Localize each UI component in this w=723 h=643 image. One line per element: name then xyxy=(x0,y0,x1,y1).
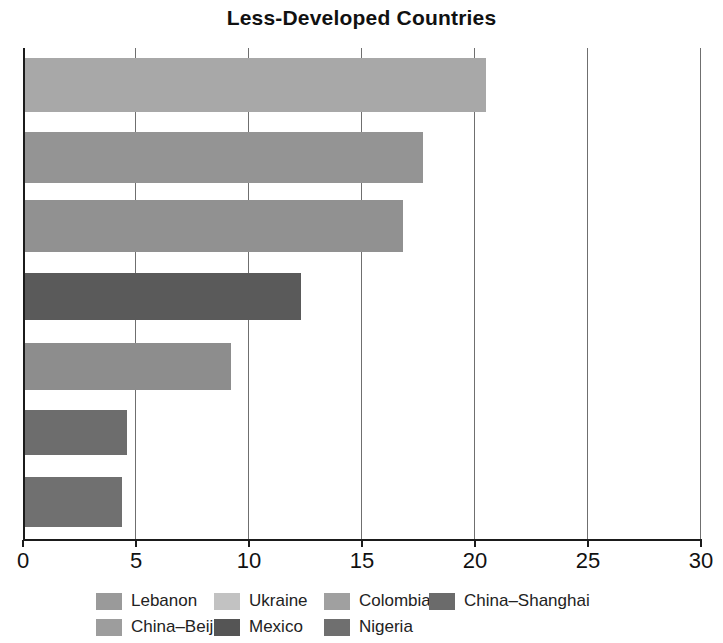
plot-area xyxy=(23,48,701,540)
legend-item-nigeria[interactable]: Nigeria xyxy=(324,617,429,637)
bar-mexico xyxy=(23,410,127,455)
legend-item-lebanon[interactable]: Lebanon xyxy=(96,591,214,611)
legend-label: Mexico xyxy=(249,617,303,637)
x-tick-mark-5 xyxy=(135,540,137,547)
x-tick-mark-10 xyxy=(248,540,250,547)
legend-row-2: China–BeijingMexicoNigeria xyxy=(96,614,716,640)
legend-label: Ukraine xyxy=(249,591,308,611)
x-tick-label-30: 30 xyxy=(671,548,723,574)
y-axis-line xyxy=(23,48,25,540)
bar-colombia xyxy=(23,200,403,252)
x-tick-mark-0 xyxy=(22,540,24,547)
x-tick-label-5: 5 xyxy=(106,548,166,574)
chart-title: Less-Developed Countries xyxy=(0,6,723,30)
x-tick-mark-25 xyxy=(587,540,589,547)
legend-item-china-shanghai[interactable]: China–Shanghai xyxy=(429,591,579,611)
chart-legend: LebanonUkraineColombiaChina–ShanghaiChin… xyxy=(96,588,716,640)
x-tick-mark-15 xyxy=(361,540,363,547)
x-tick-label-20: 20 xyxy=(445,548,505,574)
legend-swatch-icon xyxy=(96,619,122,636)
legend-item-mexico[interactable]: Mexico xyxy=(214,617,324,637)
x-tick-label-0: 0 xyxy=(0,548,53,574)
bar-china-beijing xyxy=(23,343,231,390)
bar-lebanon xyxy=(23,58,486,112)
legend-swatch-icon xyxy=(96,593,122,610)
legend-swatch-icon xyxy=(324,593,350,610)
bar-nigeria xyxy=(23,477,122,527)
legend-row-1: LebanonUkraineColombiaChina–Shanghai xyxy=(96,588,716,614)
legend-swatch-icon xyxy=(214,593,240,610)
x-tick-label-25: 25 xyxy=(558,548,618,574)
legend-item-ukraine[interactable]: Ukraine xyxy=(214,591,324,611)
gridline-15 xyxy=(361,48,362,540)
legend-label: Colombia xyxy=(359,591,431,611)
legend-label: Lebanon xyxy=(131,591,197,611)
chart-less-developed-countries: Less-Developed Countries 051015202530 Le… xyxy=(0,0,723,643)
gridline-30 xyxy=(700,48,701,540)
legend-swatch-icon xyxy=(324,619,350,636)
legend-item-china-beijing[interactable]: China–Beijing xyxy=(96,617,214,637)
gridline-25 xyxy=(587,48,588,540)
x-tick-label-10: 10 xyxy=(219,548,279,574)
legend-label: China–Shanghai xyxy=(464,591,590,611)
gridline-20 xyxy=(474,48,475,540)
x-tick-mark-20 xyxy=(474,540,476,547)
bar-china-shanghai xyxy=(23,273,301,320)
x-tick-mark-30 xyxy=(700,540,702,547)
legend-item-colombia[interactable]: Colombia xyxy=(324,591,429,611)
x-tick-label-15: 15 xyxy=(332,548,392,574)
bar-ukraine xyxy=(23,132,423,183)
legend-swatch-icon xyxy=(214,619,240,636)
legend-label: Nigeria xyxy=(359,617,413,637)
legend-swatch-icon xyxy=(429,593,455,610)
